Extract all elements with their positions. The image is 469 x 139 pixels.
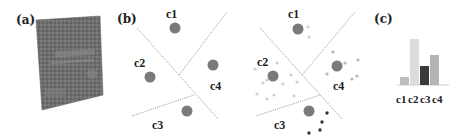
figure: (a) (b) c1 c2 c4 c3 xyxy=(0,0,469,139)
bar-label-c3: c3 xyxy=(420,93,431,105)
bar-label-c4: c4 xyxy=(432,93,443,105)
panel-a-label: (a) xyxy=(16,13,35,27)
cluster-label-c1: c1 xyxy=(288,7,299,21)
centroid-c3 xyxy=(304,106,315,117)
bar-c4 xyxy=(430,55,439,85)
centroid-c4 xyxy=(332,61,343,72)
cluster-label-c2: c2 xyxy=(257,55,268,69)
centroid-c2 xyxy=(268,71,279,82)
cluster-label-c3: c3 xyxy=(274,118,285,132)
bar-label-c2: c2 xyxy=(408,93,419,105)
panel-a: (a) xyxy=(16,13,103,110)
panel-c-label: (c) xyxy=(374,12,393,26)
bar-label-c1: c1 xyxy=(396,93,406,105)
bar-c2 xyxy=(410,39,419,85)
cluster-label-c4: c4 xyxy=(333,79,344,93)
panel-b-label: (b) xyxy=(117,12,137,26)
panel-b-voronoi: (b) c1 c2 c4 c3 xyxy=(117,7,227,132)
centroid-c3 xyxy=(182,106,193,117)
centroid-c1 xyxy=(170,23,181,34)
cluster-label-c4: c4 xyxy=(210,79,221,93)
centroids xyxy=(145,23,219,117)
panel-b-assigned: c1 c2 c4 c3 xyxy=(253,7,359,135)
cluster-label-c2: c2 xyxy=(134,56,145,70)
cluster-label-c3: c3 xyxy=(152,118,163,132)
bar-c3 xyxy=(420,66,429,85)
cluster-label-c1: c1 xyxy=(166,7,177,21)
bar-c1 xyxy=(400,77,409,85)
centroids-2 xyxy=(268,24,343,117)
panel-c-histogram: (c) c1 c2 c3 c4 xyxy=(374,12,449,105)
book-photo xyxy=(36,16,103,110)
centroid-c4 xyxy=(208,60,219,71)
centroid-c1 xyxy=(293,24,304,35)
centroid-c2 xyxy=(145,72,156,83)
